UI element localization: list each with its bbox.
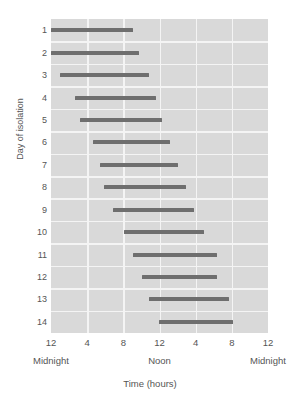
horizontal-gridline: [51, 154, 268, 156]
sleep-interval-bar: [149, 297, 229, 301]
x-axis-tick-label: 4: [176, 337, 216, 349]
y-axis-tick-label: 12: [3, 272, 47, 281]
sleep-interval-bar: [142, 275, 217, 279]
x-axis-tick-label: 4: [67, 337, 107, 349]
x-axis-period-label: Midnight: [228, 355, 300, 367]
x-axis-tick-label: 8: [103, 337, 143, 349]
y-axis-tick-label: 10: [3, 228, 47, 237]
x-axis-tick-labels: 1248124812: [0, 337, 300, 351]
sleep-interval-bar: [113, 208, 193, 212]
sleep-interval-bar: [93, 140, 171, 144]
y-axis-tick-label: 1: [3, 26, 47, 35]
y-axis-tick-label: 11: [3, 250, 47, 259]
y-axis-tick-label: 2: [3, 48, 47, 57]
horizontal-gridline: [51, 243, 268, 245]
horizontal-gridline: [51, 41, 268, 43]
horizontal-gridline: [51, 288, 268, 290]
y-axis-tick-label: 7: [3, 160, 47, 169]
y-axis-tick-label: 5: [3, 115, 47, 124]
sleep-interval-bar: [124, 230, 204, 234]
y-axis-tick-label: 6: [3, 138, 47, 147]
sleep-interval-bar: [80, 118, 162, 122]
y-axis-tick-label: 13: [3, 295, 47, 304]
y-axis-tick-label: 9: [3, 205, 47, 214]
horizontal-gridline: [51, 109, 268, 111]
x-axis-tick-label: 8: [212, 337, 252, 349]
x-axis-period-label: Midnight: [11, 355, 91, 367]
sleep-interval-bar: [159, 320, 233, 324]
sleep-interval-bar: [51, 51, 139, 55]
sleep-interval-bar: [100, 163, 178, 167]
sleep-interval-bar: [75, 96, 156, 100]
sleep-interval-bar: [104, 185, 185, 189]
horizontal-gridline: [51, 266, 268, 268]
horizontal-gridline: [51, 131, 268, 133]
x-axis-period-label: Noon: [120, 355, 200, 367]
x-axis-title: Time (hours): [0, 378, 300, 389]
sleep-interval-bar: [51, 28, 133, 32]
horizontal-gridline: [51, 86, 268, 88]
horizontal-gridline: [51, 311, 268, 313]
plot-panel: [51, 19, 268, 333]
y-axis-tick-label: 3: [3, 71, 47, 80]
x-axis-tick-label: 12: [31, 337, 71, 349]
x-axis-period-labels: MidnightNoonMidnight: [0, 355, 300, 369]
x-axis-tick-label: 12: [140, 337, 180, 349]
sleep-interval-bar: [133, 253, 217, 257]
horizontal-gridline: [51, 64, 268, 66]
horizontal-gridline: [51, 176, 268, 178]
y-axis-tick-label: 4: [3, 93, 47, 102]
horizontal-gridline: [51, 198, 268, 200]
y-axis-title: Day of isolation: [15, 59, 25, 199]
x-axis-tick-label: 12: [248, 337, 288, 349]
horizontal-gridline: [51, 221, 268, 223]
y-axis-tick-label: 8: [3, 183, 47, 192]
sleep-interval-bar: [60, 73, 149, 77]
chart-figure: 1234567891011121314 Day of isolation 124…: [0, 0, 300, 405]
y-axis-tick-label: 14: [3, 317, 47, 326]
